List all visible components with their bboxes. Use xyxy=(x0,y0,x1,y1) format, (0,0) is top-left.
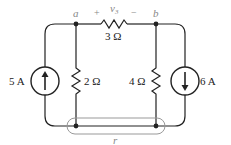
r4-label: 4 Ω xyxy=(129,75,145,87)
voltage-minus: − xyxy=(131,7,137,18)
current-source-right xyxy=(171,67,199,95)
source-right-label: 6 A xyxy=(200,75,216,87)
voltage-name: v3 xyxy=(110,2,119,16)
current-source-left xyxy=(31,67,59,95)
node-a-label: a xyxy=(73,7,79,19)
wire-top-right xyxy=(156,24,185,67)
voltage-plus: + xyxy=(94,7,100,18)
resistor-3ohm xyxy=(101,20,127,28)
node-b-dot xyxy=(154,22,159,27)
node-a-dot xyxy=(74,22,79,27)
source-left-label: 5 A xyxy=(9,75,25,87)
circuit-diagram: a b r + v3 − 3 Ω 2 Ω 4 Ω 5 A 6 A xyxy=(0,0,231,145)
resistor-2ohm xyxy=(72,24,80,126)
r2-label: 2 Ω xyxy=(84,75,100,87)
node-r-dot-right xyxy=(154,124,159,129)
wire-top-left xyxy=(45,24,76,67)
resistor-4ohm xyxy=(152,24,160,126)
wire-bottom-right xyxy=(156,95,185,126)
node-b-label: b xyxy=(153,7,159,19)
node-r-dot-left xyxy=(74,124,79,129)
node-r-label: r xyxy=(113,134,118,145)
wire-bottom-left xyxy=(45,95,76,126)
r3-label: 3 Ω xyxy=(105,30,121,42)
